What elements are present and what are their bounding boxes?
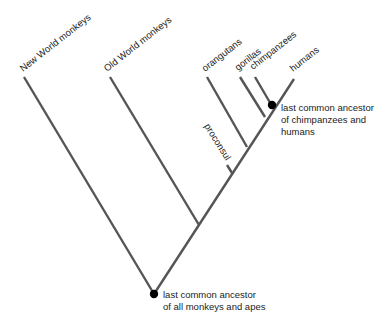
chimp-human-node-label-line2: of chimpanzees and — [281, 114, 366, 125]
label-humans: humans — [287, 44, 321, 74]
branch-gorillas — [240, 77, 265, 117]
root-node-label-line1: last common ancestor — [163, 289, 256, 300]
chimp-human-node-dot — [268, 101, 276, 109]
label-proconsul: proconsul — [202, 121, 233, 162]
root-node-label-line2: of all monkeys and apes — [163, 301, 266, 312]
branch-new-world-monkeys — [24, 77, 154, 294]
chimp-human-node-label-line3: humans — [281, 126, 315, 137]
label-old-world-monkeys: Old World monkeys — [101, 14, 173, 74]
chimp-human-node-label-line1: last common ancestor — [281, 102, 374, 113]
root-node-dot — [150, 290, 158, 298]
tree-canvas: New World monkeys Old World monkeys oran… — [0, 0, 386, 329]
label-new-world-monkeys: New World monkeys — [17, 11, 92, 73]
branch-old-world-monkeys — [110, 77, 199, 225]
branch-proconsul — [227, 165, 232, 173]
branch-chimpanzees — [255, 77, 272, 106]
phylogenetic-tree: New World monkeys Old World monkeys oran… — [0, 0, 386, 329]
